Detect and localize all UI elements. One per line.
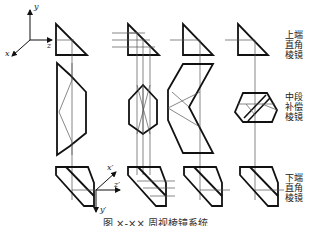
bottom-prism-3 bbox=[184, 167, 222, 206]
bottom-prism-1 bbox=[56, 167, 94, 206]
top-prism-4 bbox=[238, 24, 268, 55]
axis-label-y: y bbox=[34, 3, 39, 11]
label-bottom-line1: 下端 bbox=[285, 173, 305, 183]
label-top-line2: 直角 bbox=[285, 40, 305, 50]
label-bottom-line2: 直角 bbox=[285, 183, 305, 193]
axis-label-x-prime: x′ bbox=[107, 164, 113, 172]
axis-label-z-prime: z′ bbox=[114, 181, 120, 189]
column-4 bbox=[225, 24, 284, 206]
bottom-prism-2 bbox=[128, 167, 166, 206]
label-top-line3: 棱镜 bbox=[285, 50, 305, 60]
column-2 bbox=[112, 24, 175, 206]
label-middle-prism: 中段 补偿 棱镜 bbox=[285, 92, 305, 122]
periscope-prism-diagram bbox=[0, 0, 311, 226]
top-prism-1 bbox=[56, 24, 87, 55]
top-prism-3 bbox=[183, 24, 213, 55]
bottom-prism-4 bbox=[240, 167, 278, 206]
column-3 bbox=[168, 24, 230, 206]
label-bottom-line3: 棱镜 bbox=[285, 193, 305, 203]
axis-label-x: x bbox=[5, 50, 10, 58]
label-top-line1: 上端 bbox=[285, 30, 305, 40]
label-middle-line2: 补偿 bbox=[285, 102, 305, 112]
label-middle-line3: 棱镜 bbox=[285, 112, 305, 122]
axis-label-y-prime: y′ bbox=[100, 206, 106, 214]
middle-prism-3 bbox=[168, 64, 213, 153]
top-prism-2 bbox=[128, 24, 159, 55]
label-top-prism: 上端 直角 棱镜 bbox=[285, 30, 305, 60]
column-1 bbox=[56, 24, 96, 206]
axis-label-z: z bbox=[47, 42, 51, 50]
top-axes bbox=[12, 10, 52, 56]
label-bottom-prism: 下端 直角 棱镜 bbox=[285, 173, 305, 203]
label-middle-line1: 中段 bbox=[285, 92, 305, 102]
figure-caption: 图 ×-×× 周视棱镜系统 bbox=[0, 218, 311, 226]
